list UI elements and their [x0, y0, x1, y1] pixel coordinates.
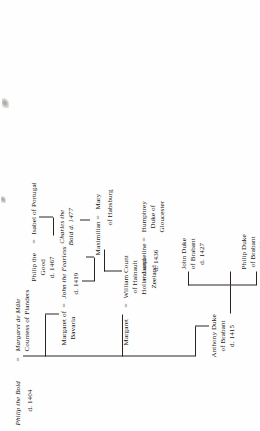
john-fearless-death: d. 1419 — [72, 272, 81, 294]
philip-good-equals: = — [30, 239, 39, 243]
connector-to-john-fearless — [45, 314, 46, 356]
mary-habsburg-title: of Habsburg — [106, 189, 115, 225]
node-john-the-fearless: John the Fearless — [60, 246, 69, 298]
john-brabant-name: John Duke — [180, 238, 189, 269]
node-anthony-brabant: Anthony Duke of Brabant d. 1415 — [210, 314, 238, 357]
connector-john-fearless-stem — [82, 280, 94, 281]
connector-to-philip-brabant — [230, 271, 231, 285]
charles-bold-name: Charles the — [58, 207, 67, 245]
jacqueline-death: d. 1436 — [152, 249, 161, 271]
john-fearless-equals: = — [60, 303, 69, 307]
node-margaret-de-male: Margaret de Mâle Countess of Flanders — [14, 289, 32, 351]
connector-anthony-stem — [230, 285, 231, 313]
margaret-name: Margaret — [122, 318, 131, 345]
john-brabant-title: of Brabant — [189, 238, 198, 269]
anthony-name: Anthony Duke — [210, 314, 219, 357]
connector-philip-bold-stem — [23, 355, 45, 356]
jacqueline-name: Jacqueline — [140, 243, 149, 274]
connector-anthony-drop — [195, 325, 209, 326]
connector-philip-good-stem — [39, 216, 53, 217]
william-name: William Count — [122, 255, 131, 298]
node-margaret-burgundy: Margaret — [122, 318, 131, 345]
charles-bold-epithet: Bold d. 1477 — [67, 207, 75, 245]
connector-to-charles-bold — [53, 217, 54, 235]
mary-name: Mary — [94, 193, 103, 209]
node-john-brabant: John Duke of Brabant d. 1427 — [180, 238, 208, 269]
maximilian-equals: = — [94, 215, 103, 219]
philip-brabant-death: d. 1430 — [258, 234, 260, 269]
philip-bold-equals: = — [14, 357, 23, 361]
connector-bus-vertical — [45, 355, 195, 356]
genealogy-chart: Philip the Bold = Margaret de Mâle Count… — [0, 0, 260, 431]
connector-jacqueline-bus — [104, 249, 105, 271]
john-fearless-name: John the Fearless — [60, 246, 69, 298]
node-mary-of-habsburg: Mary — [94, 193, 103, 209]
anthony-title: of Brabant — [219, 314, 228, 357]
philip-good-name2: Good — [39, 253, 48, 281]
connector-to-john-brabant — [188, 271, 189, 285]
margaret-male-title: Countess of Flanders — [23, 289, 32, 351]
jacqueline-equals-left: = — [140, 277, 149, 281]
john-brabant-death: d. 1427 — [198, 238, 207, 269]
connector-philip-brabant-stem — [256, 271, 257, 285]
node-philip-brabant: Philip Duke of Brabant d. 1430 — [240, 234, 260, 269]
connector-john-to-philip-good — [94, 257, 95, 281]
margaret-hainault-equals: = — [122, 303, 131, 307]
connector-charles-to-mary — [80, 219, 90, 220]
isabel-portugal-name: Isabel of Portugal — [30, 182, 39, 234]
connector-brabant-bus — [188, 284, 230, 285]
connector-john-fearless-drop — [45, 313, 59, 314]
philip-bold-death: d. 1404 — [26, 389, 35, 411]
humphrey-title-1: Duke of — [149, 200, 158, 232]
philip-bold-name: Philip the Bold — [14, 381, 23, 425]
connector-philip-good-drop — [86, 256, 94, 257]
philip-brabant-name: Philip Duke — [240, 234, 249, 269]
jacqueline-equals-right: = — [140, 237, 149, 241]
charles-bold-name2: Bold d. 1477 — [67, 207, 76, 245]
humphrey-title-2: Gloucester — [158, 200, 167, 232]
node-philip-the-bold: Philip the Bold — [14, 381, 23, 425]
philip-good-death: d. 1467 — [48, 253, 57, 281]
philip-good-name: Philip the — [30, 253, 39, 281]
scanned-page: Philip the Bold = Margaret de Mâle Count… — [0, 0, 260, 431]
philip-brabant-title: of Brabant — [249, 234, 258, 269]
connector-brabant-bus-lower — [230, 284, 256, 285]
margaret-male-name: Margaret de Mâle — [14, 289, 23, 351]
connector-jacqueline-drop — [104, 270, 122, 271]
margaret-bavaria-name: Margaret of — [60, 310, 69, 345]
margaret-bavaria-name2: Bavaria — [69, 310, 78, 345]
node-philip-the-good: Philip the Good d. 1467 — [30, 253, 58, 281]
node-margaret-of-bavaria: Margaret of Bavaria — [60, 310, 78, 345]
maximilian-name: Maximilian — [94, 221, 103, 255]
node-jacqueline: Jacqueline — [140, 243, 149, 274]
anthony-death: d. 1415 — [228, 314, 237, 357]
node-humphrey-gloucester: Humphrey Duke of Gloucester — [140, 200, 168, 232]
humphrey-name: Humphrey — [140, 200, 149, 232]
node-isabel-of-portugal: Isabel of Portugal — [30, 182, 39, 234]
node-maximilian: Maximilian — [94, 221, 103, 255]
node-charles-the-bold: Charles the Bold d. 1477 — [58, 207, 76, 245]
connector-to-anthony — [195, 326, 196, 356]
